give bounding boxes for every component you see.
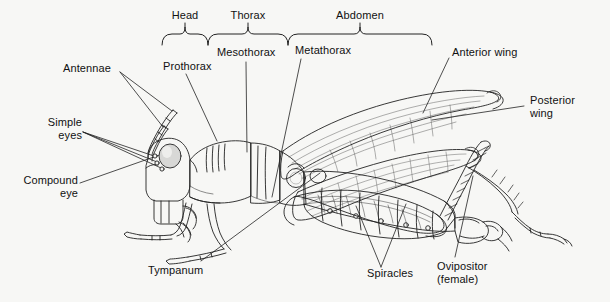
hindleg-upper-tibia [466, 166, 523, 214]
hindleg-tarsus [512, 212, 572, 246]
prothorax-segment [190, 141, 251, 203]
region-bracket [162, 23, 432, 45]
label-metathorax: Metathorax [295, 44, 351, 57]
label-antennae: Antennae [63, 62, 111, 75]
compound-eye [159, 144, 181, 168]
region-label-thorax: Thorax [218, 9, 278, 22]
label-simple-eyes: Simple eyes [20, 116, 82, 141]
label-ovipositor: Ovipositor (female) [437, 260, 488, 285]
label-posterior-wing: Posterior wing [530, 94, 575, 119]
label-compound-eye: Compound eye [0, 174, 78, 199]
tibia-spines [445, 146, 489, 216]
mesothorax-segment [251, 143, 280, 203]
figure-canvas: Head Thorax Abdomen Prothorax Mesothorax… [0, 0, 610, 302]
simple-eye-1 [153, 154, 157, 158]
simple-eye-2 [155, 161, 159, 165]
midleg [166, 204, 231, 264]
foreleg [124, 203, 192, 240]
abdomen-tip [455, 217, 488, 243]
simple-eye-3 [160, 167, 164, 171]
label-anterior-wing: Anterior wing [452, 46, 518, 59]
label-prothorax: Prothorax [163, 60, 212, 73]
hindleg-tibia [440, 141, 490, 220]
label-spiracles: Spiracles [367, 267, 413, 280]
label-mesothorax: Mesothorax [217, 46, 275, 59]
body-contours [190, 186, 280, 203]
label-tympanum: Tympanum [148, 264, 203, 277]
region-label-abdomen: Abdomen [325, 9, 395, 22]
region-label-head: Head [155, 9, 215, 22]
